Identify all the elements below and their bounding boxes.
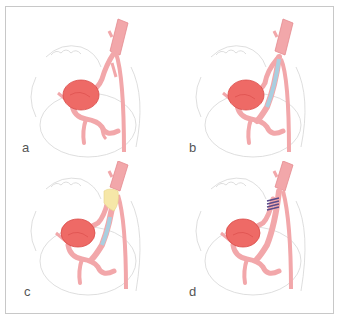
panel-b: b xyxy=(171,7,335,161)
aneurysm xyxy=(228,80,264,110)
aneurysm xyxy=(63,80,99,110)
vascular-illustration-b xyxy=(171,7,335,161)
figure-frame: a b xyxy=(5,6,334,314)
vascular-illustration-a xyxy=(6,7,170,161)
aneurysm xyxy=(226,219,260,247)
panel-a: a xyxy=(6,7,170,161)
panel-c: c xyxy=(6,161,170,315)
panel-label-a: a xyxy=(22,141,29,154)
panel-label-c: c xyxy=(24,285,31,298)
panel-label-b: b xyxy=(189,141,196,154)
panel-label-d: d xyxy=(189,285,196,298)
panel-d: d xyxy=(171,161,335,315)
aneurysm xyxy=(61,219,95,247)
